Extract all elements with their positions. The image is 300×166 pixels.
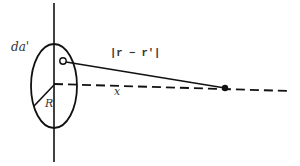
separation-line	[66, 62, 225, 88]
field-point-dot	[222, 85, 228, 91]
radius-label: R	[44, 97, 53, 110]
area-element-label: da'	[11, 40, 29, 54]
area-element-circle	[60, 58, 66, 64]
charged-disk-diagram: da' |r − r'| x R	[0, 0, 300, 166]
separation-label: |r − r'|	[110, 47, 160, 59]
axis-distance-label: x	[114, 85, 121, 98]
dashed-axis-line	[54, 84, 290, 91]
